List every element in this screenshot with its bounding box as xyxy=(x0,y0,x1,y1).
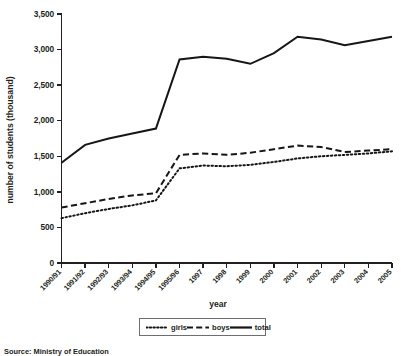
plot-area: 05001,0001,5002,0002,5003,0003,500 1990/… xyxy=(0,0,401,300)
legend-label-girls: girls xyxy=(171,323,187,332)
legend-label-total: total xyxy=(255,323,271,332)
x-axis-title: year xyxy=(209,299,227,309)
legend-item-girls: girls xyxy=(146,323,187,332)
x-tick-label: 2003 xyxy=(328,268,346,286)
y-tick-label: 1,000 xyxy=(34,187,55,197)
y-tick-label: 1,500 xyxy=(34,151,55,161)
y-tick-label: 0 xyxy=(49,258,54,268)
x-tick-label: 1997 xyxy=(187,268,205,286)
legend-swatch-boys-icon xyxy=(187,324,209,331)
legend-item-total: total xyxy=(230,323,271,332)
y-tick-label: 3,000 xyxy=(34,44,55,54)
legend-label-boys: boys xyxy=(212,323,230,332)
y-tick-label: 2,500 xyxy=(34,80,55,90)
x-tick-label: 1995/96 xyxy=(156,268,181,293)
x-axis: 1990/911991/921992/931993/941994/951995/… xyxy=(38,263,393,292)
x-tick-label: 1999 xyxy=(234,268,252,286)
data-series-group xyxy=(62,37,393,218)
y-tick-label: 2,000 xyxy=(34,115,55,125)
x-tick-label: 1994/95 xyxy=(133,268,158,293)
line-chart: 05001,0001,5002,0002,5003,0003,500 1990/… xyxy=(0,0,401,300)
x-tick-label: 2005 xyxy=(376,268,394,286)
x-tick-label: 1991/92 xyxy=(62,268,87,293)
y-tick-label: 3,500 xyxy=(34,9,55,19)
legend-swatch-total-icon xyxy=(230,324,252,331)
legend-item-boys: boys xyxy=(187,323,230,332)
x-tick-label: 1992/93 xyxy=(85,268,110,293)
series-line-girls xyxy=(62,151,393,218)
y-tick-label: 500 xyxy=(40,222,54,232)
x-tick-label: 2004 xyxy=(352,267,370,285)
legend-swatch-girls-icon xyxy=(146,324,168,331)
x-tick-label: 1993/94 xyxy=(109,267,134,292)
x-tick-label: 1990/91 xyxy=(38,268,63,293)
series-line-total xyxy=(62,37,393,163)
y-axis-title: number of students (thousand) xyxy=(5,76,15,203)
x-tick-label: 2002 xyxy=(305,268,323,286)
x-tick-label: 1998 xyxy=(210,268,228,286)
x-tick-label: 2001 xyxy=(281,268,299,286)
chart-figure: 05001,0001,5002,0002,5003,0003,500 1990/… xyxy=(0,0,401,356)
chart-legend: girls boys total xyxy=(139,318,266,336)
source-note: Source: Ministry of Education xyxy=(4,347,109,356)
y-axis: 05001,0001,5002,0002,5003,0003,500 xyxy=(34,9,62,268)
x-tick-label: 2000 xyxy=(258,268,276,286)
